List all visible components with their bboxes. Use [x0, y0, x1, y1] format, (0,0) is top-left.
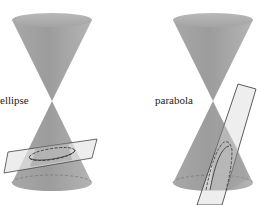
upper-cone-left	[12, 13, 92, 101]
conic-sections-drawing	[0, 0, 257, 205]
parabola-panel	[173, 13, 256, 205]
conic-sections-figure: ellipse parabola	[0, 0, 257, 205]
ellipse-label: ellipse	[0, 94, 29, 106]
parabola-label: parabola	[155, 94, 193, 106]
